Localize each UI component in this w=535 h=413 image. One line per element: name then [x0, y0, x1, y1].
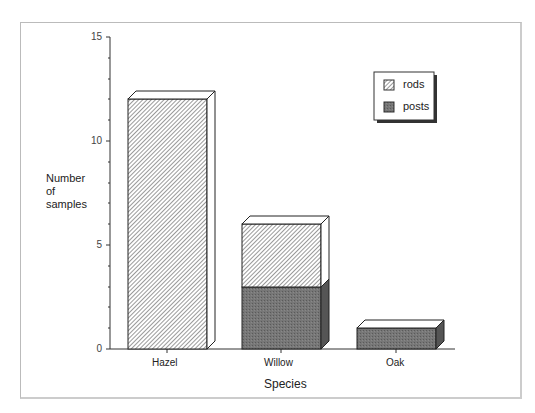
legend-swatch-rods [384, 80, 394, 90]
bar-oak-posts [357, 328, 436, 349]
bar-willow-posts [242, 287, 321, 349]
bar-willow [242, 216, 329, 349]
y-tick-0: 0 [82, 343, 102, 354]
y-tick-15: 15 [82, 31, 102, 42]
y-label-line: samples [46, 198, 87, 211]
bar-hazel [128, 91, 215, 349]
bar-hazel-rods [128, 99, 207, 349]
x-label-hazel: Hazel [152, 357, 178, 368]
y-tick-5: 5 [82, 239, 102, 250]
x-axis [110, 349, 455, 353]
y-axis-label: Number of samples [46, 172, 87, 211]
x-label-oak: Oak [386, 357, 404, 368]
legend-label-posts: posts [403, 100, 429, 112]
x-axis-label: Species [264, 377, 307, 391]
bar-oak [357, 320, 444, 349]
bar-willow-rods [242, 224, 321, 287]
y-label-line: of [46, 185, 87, 198]
legend-swatch-posts [384, 102, 394, 112]
y-tick-10: 10 [82, 135, 102, 146]
y-axis [106, 37, 110, 349]
legend-label-rods: rods [403, 78, 424, 90]
y-label-line: Number [46, 172, 87, 185]
x-label-willow: Willow [264, 357, 293, 368]
